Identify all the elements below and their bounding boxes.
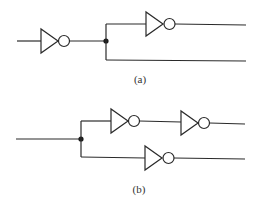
circuit-figure: (a) (b) bbox=[0, 0, 260, 206]
upper-output-wire bbox=[175, 24, 246, 25]
inverter-not-gate-icon bbox=[111, 109, 140, 133]
caption-a: (a) bbox=[134, 73, 147, 86]
diagram-a: (a) bbox=[17, 12, 246, 86]
lower-output-wire bbox=[106, 60, 246, 61]
diagram-b: (b) bbox=[16, 109, 245, 196]
upper-output-wire bbox=[210, 123, 246, 124]
lower-output-wire bbox=[174, 158, 245, 159]
inverter-not-gate-icon bbox=[41, 29, 70, 53]
inverter-not-gate-icon bbox=[146, 12, 175, 36]
inverter-not-gate-icon bbox=[145, 146, 174, 170]
lower-branch-wire bbox=[81, 157, 145, 158]
wire bbox=[140, 121, 182, 122]
caption-b: (b) bbox=[133, 183, 146, 196]
inverter-not-gate-icon bbox=[181, 111, 210, 135]
